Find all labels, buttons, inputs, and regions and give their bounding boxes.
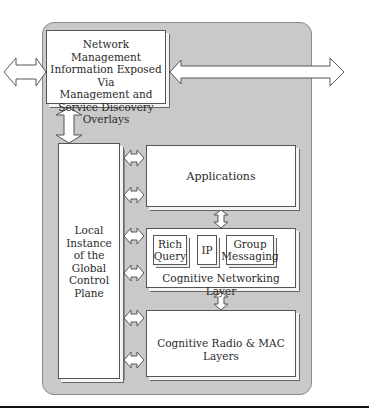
h-arrow-3: [124, 228, 144, 244]
top-box-line-1: Network Management: [47, 38, 165, 63]
global-control-plane-box: Local Instance of the Global Control Pla…: [58, 143, 120, 379]
left-external-arrow: [4, 58, 46, 86]
h-arrow-5: [124, 310, 144, 326]
cognitive-networking-layer-box: Rich Query IP Group Messaging Cognitive …: [146, 228, 296, 288]
control-plane-line-1: Local: [59, 224, 119, 237]
bottom-rule: [0, 406, 369, 408]
group-messaging-module: Group Messaging: [226, 235, 274, 265]
top-box-line-4: Service Discovery: [47, 101, 165, 114]
control-plane-line-6: Plane: [59, 287, 119, 300]
cognitive-radio-label: Cognitive Radio & MAC Layers: [147, 337, 295, 363]
top-box-line-2: Information Exposed Via: [47, 63, 165, 88]
control-plane-line-5: Control: [59, 274, 119, 287]
rich-query-module: Rich Query: [153, 235, 187, 265]
v-arrow-apps-cnl: [214, 210, 228, 228]
network-management-box: Network Management Information Exposed V…: [46, 30, 166, 104]
h-arrow-1: [124, 150, 144, 166]
top-box-line-3: Management and: [47, 88, 165, 101]
control-plane-line-3: of the: [59, 249, 119, 262]
ip-label: IP: [201, 244, 212, 256]
control-plane-line-4: Global: [59, 262, 119, 275]
h-arrow-6: [124, 352, 144, 368]
applications-layer-box: Applications: [146, 145, 296, 207]
right-external-arrow: [170, 58, 344, 86]
control-plane-line-2: Instance: [59, 237, 119, 250]
rich-query-line-1: Rich: [154, 238, 187, 250]
h-arrow-2: [124, 187, 144, 203]
top-box-line-5: Overlays: [47, 113, 165, 126]
cognitive-networking-label: Cognitive Networking Layer: [147, 272, 295, 298]
applications-label: Applications: [147, 170, 295, 183]
h-arrow-4: [124, 265, 144, 281]
group-messaging-line-2: Messaging: [221, 250, 279, 262]
group-messaging-line-1: Group: [221, 238, 279, 250]
ip-module: IP: [197, 235, 217, 265]
cognitive-radio-mac-layer-box: Cognitive Radio & MAC Layers: [146, 310, 296, 377]
rich-query-line-2: Query: [154, 250, 187, 262]
